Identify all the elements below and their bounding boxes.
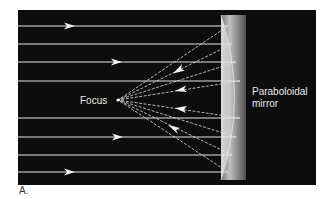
focus-label: Focus [80,95,107,106]
panel-label: A. [19,185,28,196]
mirror-label-line2: mirror [252,98,279,109]
diagram-canvas: Focus Paraboloidal mirror [0,0,330,199]
paraboloidal-mirror-figure: Focus Paraboloidal mirror A. [0,0,330,199]
focus-point [117,99,120,102]
mirror-label-line1: Paraboloidal [252,86,308,97]
